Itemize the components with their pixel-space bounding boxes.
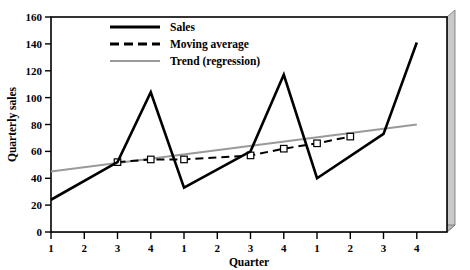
x-axis-tick-labels: 1 2 3 4 1 2 3 4 1 2 3 4 — [48, 242, 420, 254]
x-axis-title: Quarter — [229, 256, 269, 268]
x-tick-label: 1 — [48, 242, 54, 254]
series-marker — [347, 133, 354, 140]
y-tick-label: 100 — [26, 92, 43, 104]
x-tick-label: 2 — [82, 242, 88, 254]
x-axis-ticks — [51, 232, 417, 239]
x-tick-label: 4 — [148, 242, 154, 254]
series-marker — [148, 156, 155, 163]
y-tick-label: 60 — [31, 145, 43, 157]
y-axis-ticks — [45, 17, 51, 232]
y-tick-label: 80 — [31, 119, 43, 131]
legend-label-sales: Sales — [170, 21, 195, 33]
legend-label-trend-regression: Trend (regression) — [170, 55, 260, 68]
series-marker — [281, 145, 288, 152]
x-tick-label: 3 — [115, 242, 121, 254]
legend-label-moving-average: Moving average — [170, 38, 249, 51]
chart-container: 160 140 120 100 80 60 40 20 0 Quarterly … — [0, 0, 470, 270]
y-axis-tick-labels: 160 140 120 100 80 60 40 20 0 — [26, 11, 43, 238]
y-tick-label: 0 — [37, 226, 43, 238]
x-tick-label: 2 — [215, 242, 221, 254]
x-tick-label: 1 — [181, 242, 187, 254]
y-tick-label: 140 — [26, 38, 43, 50]
y-tick-label: 160 — [26, 11, 43, 23]
x-tick-label: 2 — [348, 242, 354, 254]
x-tick-label: 3 — [381, 242, 387, 254]
y-tick-label: 120 — [26, 65, 43, 77]
x-tick-label: 4 — [281, 242, 287, 254]
x-tick-label: 3 — [248, 242, 254, 254]
quarterly-sales-line-chart: 160 140 120 100 80 60 40 20 0 Quarterly … — [0, 0, 470, 270]
y-tick-label: 20 — [31, 199, 43, 211]
y-tick-label: 40 — [31, 172, 43, 184]
x-tick-label: 4 — [414, 242, 420, 254]
y-axis-title: Quarterly sales — [6, 86, 19, 162]
x-tick-label: 1 — [314, 242, 320, 254]
series-marker — [314, 140, 321, 147]
series-marker — [181, 156, 188, 163]
